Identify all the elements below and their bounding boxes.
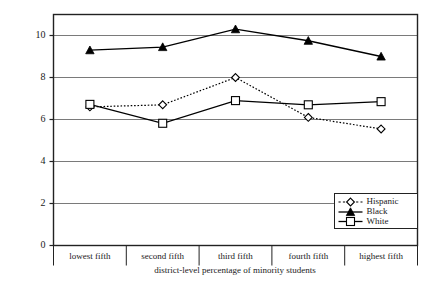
legend-entry-hispanic[interactable]: Hispanic — [367, 196, 399, 206]
x-tick-label: second fifth — [126, 251, 199, 261]
y-tick-label: 0 — [24, 239, 46, 250]
y-tick-label: 6 — [24, 113, 46, 124]
x-tick-label: third fifth — [199, 251, 272, 261]
y-axis-title: %LD — [0, 74, 1, 134]
x-tick-label: highest fifth — [345, 251, 418, 261]
line-chart-canvas — [0, 0, 439, 288]
chart-figure: %LD 0246810 lowest fifthsecond fifththir… — [0, 0, 439, 288]
y-tick-label: 4 — [24, 155, 46, 166]
data-series-layer — [86, 25, 386, 133]
x-tick-label: fourth fifth — [272, 251, 345, 261]
y-tick-label: 2 — [24, 197, 46, 208]
y-tick-label: 8 — [24, 71, 46, 82]
legend-entry-black[interactable]: Black — [367, 206, 388, 216]
x-tick-label: lowest fifth — [54, 251, 127, 261]
y-tick-label: 10 — [24, 29, 46, 40]
x-axis-title: district-level percentage of minority st… — [53, 265, 417, 275]
legend-entry-white[interactable]: White — [367, 216, 389, 226]
grid-lines — [54, 36, 418, 204]
